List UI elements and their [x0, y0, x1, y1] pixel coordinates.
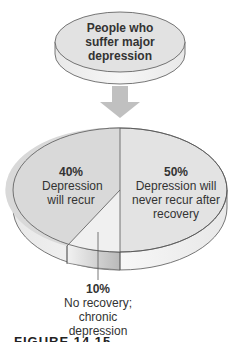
slice-chronic-percent: 10%: [58, 282, 138, 296]
down-arrow-icon: [100, 86, 140, 118]
slice-never-recur-text: Depression will never recur after recove…: [128, 179, 224, 221]
slice-never-recur-percent: 50%: [128, 165, 224, 179]
top-disc-label: People who suffer major depression: [70, 21, 170, 63]
figure-caption: FIGURE 14.15: [14, 331, 111, 342]
slice-recur-label: 40% Depression will recur: [30, 165, 112, 207]
slice-never-recur-label: 50% Depression will never recur after re…: [128, 165, 224, 221]
slice-recur-text: Depression will recur: [30, 179, 112, 207]
slice-recur-percent: 40%: [30, 165, 112, 179]
slice-chronic-label: 10% No recovery; chronic depression: [58, 282, 138, 338]
